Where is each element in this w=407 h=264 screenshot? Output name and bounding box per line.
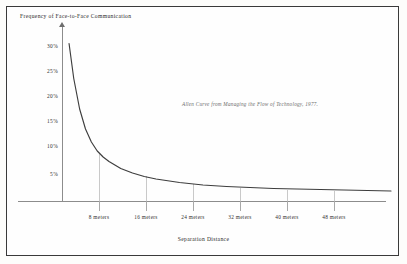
source-annotation: Allen Curve from Managing the Flow of Te…: [182, 101, 318, 107]
figure-container: Frequency of Face-to-Face Communication …: [0, 0, 407, 264]
x-axis-title: Separation Distance: [0, 236, 407, 242]
allen-curve: [0, 0, 407, 264]
plot-area: Frequency of Face-to-Face Communication …: [0, 0, 407, 264]
